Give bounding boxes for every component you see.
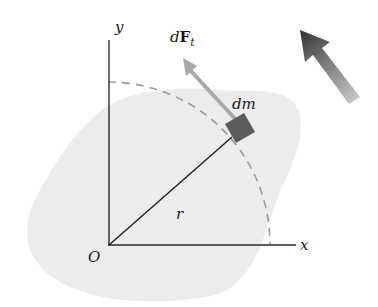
radius-label: r <box>176 207 183 222</box>
rigid-body-shape <box>27 88 301 301</box>
y-axis-label: y <box>115 20 123 35</box>
force-symbol: F <box>180 28 191 46</box>
diagram-canvas: y x O r dm dFt <box>0 0 378 307</box>
diagram-svg <box>0 0 378 307</box>
rotation-arrow-icon <box>300 30 360 104</box>
mass-element-label: dm <box>232 97 256 112</box>
origin-label: O <box>88 250 100 265</box>
force-subscript: t <box>190 36 194 49</box>
force-prefix: d <box>170 28 180 46</box>
force-label: dFt <box>170 30 195 45</box>
x-axis-label: x <box>300 238 308 253</box>
